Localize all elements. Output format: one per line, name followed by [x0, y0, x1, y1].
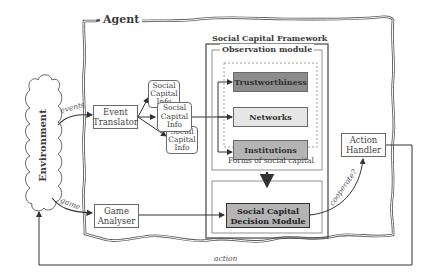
decision-module-node: Social Capital Decision Module — [226, 203, 310, 228]
observation-module-label: Observation module — [220, 44, 314, 54]
action-handler-line1: Action — [350, 135, 378, 145]
agent-label: Agent — [100, 13, 142, 26]
trustworthiness-node: Trustworthiness — [233, 72, 308, 92]
framework-title: Social Capital Framework — [212, 33, 327, 43]
social-capital-info-node-2: Social Capital Info — [157, 102, 192, 132]
action-handler-node: Action Handler — [341, 133, 386, 157]
environment-label: Environment — [37, 106, 48, 186]
forms-of-social-capital-label: Forms of social capital — [228, 156, 314, 165]
event-translator-line2: Translator — [93, 117, 138, 127]
decision-line2: Decision Module — [230, 216, 305, 226]
game-analyser-line1: Game — [104, 206, 129, 216]
sci-line3: Info — [167, 121, 182, 130]
edge-label-action: action — [214, 254, 237, 263]
event-translator-node: Event Translator — [93, 105, 138, 129]
game-analyser-node: Game Analyser — [94, 204, 139, 228]
sci-line3: Info — [174, 144, 189, 152]
game-analyser-line2: Analyser — [98, 216, 136, 226]
networks-node: Networks — [233, 107, 308, 127]
decision-line1: Social Capital — [237, 206, 299, 216]
action-handler-line2: Handler — [346, 145, 381, 155]
event-translator-line1: Event — [103, 107, 128, 117]
